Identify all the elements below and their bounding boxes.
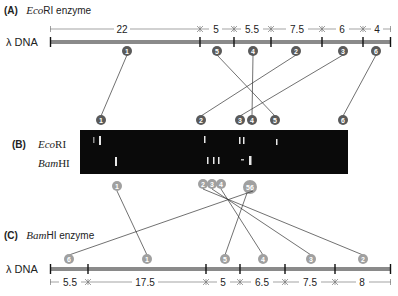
panel-a-dna-bar [50,40,391,44]
gel-bottom-3: 3 [210,181,214,188]
gel-top-1: 1 [99,117,103,124]
gel-image [80,130,348,174]
fragment-a-3: 3 [341,48,345,55]
gel-top-4: 4 [250,117,254,124]
fragment-a-4: 4 [251,48,255,55]
panel-b-top-markers: 1 2 3 4 5 6 [96,115,348,125]
diagram-canvas: 22 5 5.5 7.5 6 4 1 5 4 2 3 6 1 2 3 4 5 6 [0,0,398,296]
fragment-a-6: 6 [374,48,378,55]
segment-a-5: 6 [339,24,345,35]
fragment-c-2: 2 [361,256,365,263]
panel-c-connectors [69,189,363,255]
segment-c-4: 6.5 [255,277,269,288]
segment-a-3: 5.5 [245,24,259,35]
fragment-a-2: 2 [294,48,298,55]
panel-a-fragment-markers: 1 5 4 2 3 6 [122,46,381,56]
fragment-c-5: 5 [223,256,227,263]
gel-bottom-2: 2 [201,181,205,188]
segment-a-1: 22 [116,24,128,35]
panel-c-dna-bar [50,267,391,271]
gel-bottom-4: 4 [219,181,223,188]
segment-a-4: 7.5 [290,24,304,35]
segment-a-2: 5 [213,24,219,35]
segment-c-3: 5 [220,277,226,288]
gel-top-2: 2 [199,117,203,124]
panel-a-connectors [101,55,376,116]
gel-top-5: 5 [273,117,277,124]
panel-a-dna-map: 22 5 5.5 7.5 6 4 [50,23,391,47]
segment-c-2: 17.5 [135,277,155,288]
fragment-a-1: 1 [125,48,129,55]
fragment-a-5: 5 [215,48,219,55]
segment-c-1: 5.5 [63,277,77,288]
gel-top-3: 3 [238,117,242,124]
gel-bottom-56: 56 [246,184,254,191]
fragment-c-3: 3 [309,256,313,263]
panel-c-fragment-markers: 6 1 5 4 3 2 [64,254,368,264]
panel-c-dna-map: 5.5 17.5 5 6.5 7.5 8 [50,264,391,288]
gel-top-6: 6 [341,117,345,124]
segment-c-6: 8 [359,277,365,288]
gel-bottom-1: 1 [115,183,119,190]
segment-a-6: 4 [374,24,380,35]
panel-b-bottom-markers: 1 2 3 4 56 [112,179,257,194]
fragment-c-6: 6 [67,256,71,263]
segment-c-5: 7.5 [303,277,317,288]
fragment-c-4: 4 [261,256,265,263]
fragment-c-1: 1 [145,256,149,263]
